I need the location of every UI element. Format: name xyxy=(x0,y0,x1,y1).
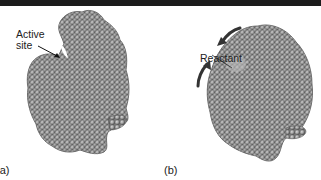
panel-label-a: (a) xyxy=(0,164,9,176)
panel-b: Reactant (b) xyxy=(160,6,321,180)
panel-a: Active site (a) xyxy=(0,6,160,180)
enzyme-molecule-b xyxy=(160,6,321,180)
panel-label-b: (b) xyxy=(164,164,177,176)
active-site-label: Active site xyxy=(16,29,45,51)
active-site-label-line2: site xyxy=(16,40,45,51)
reactant-label: Reactant xyxy=(200,53,242,64)
